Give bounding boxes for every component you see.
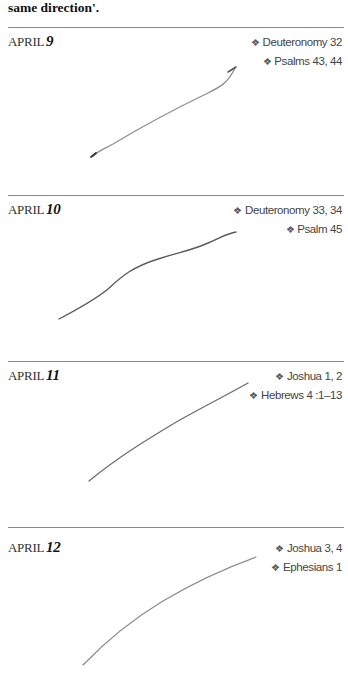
journal-entry-april-9: APRIL9 ❖Deuteronomy 32 ❖Psalms 43, 44 xyxy=(8,27,344,192)
sketch-line xyxy=(93,68,235,156)
journal-entry-april-10: APRIL10 ❖Deuteronomy 33, 34 ❖Psalm 45 xyxy=(8,195,344,360)
pencil-stroke-sketch xyxy=(8,361,344,526)
intro-text: same direction'. xyxy=(8,0,99,16)
journal-entry-april-11: APRIL11 ❖Joshua 1, 2 ❖Hebrews 4 :1–13 xyxy=(8,361,344,526)
sketch-line xyxy=(83,557,256,665)
sketch-line xyxy=(59,232,236,319)
pencil-stroke-sketch xyxy=(8,527,344,691)
journal-entry-april-12: APRIL12 ❖Joshua 3, 4 ❖Ephesians 1 xyxy=(8,527,344,691)
sketch-line xyxy=(89,383,248,481)
pencil-stroke-sketch xyxy=(8,195,344,360)
pencil-stroke-sketch xyxy=(8,27,344,192)
